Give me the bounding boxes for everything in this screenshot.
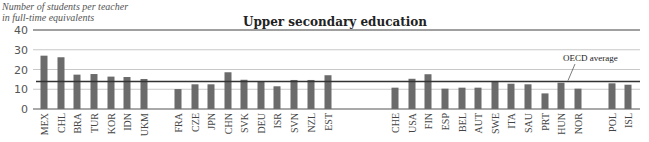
category-label: DEU: [256, 112, 267, 133]
oecd-average-annotation: OECD average: [563, 53, 618, 81]
category-label: ITA: [506, 112, 517, 129]
category-label: IDN: [122, 113, 133, 131]
annotation-leader-line: [568, 64, 575, 81]
bar-tur: [91, 74, 98, 109]
category-label: FRA: [173, 112, 184, 132]
y-tick-label: 0: [21, 103, 28, 116]
bar-bra: [74, 75, 81, 109]
category-label: USA: [407, 112, 418, 133]
bar-aut: [475, 88, 482, 109]
bar-mex: [41, 56, 48, 109]
bar-swe: [492, 81, 499, 109]
bar-nor: [575, 89, 582, 109]
bar-est: [325, 75, 332, 109]
category-label: UKM: [139, 113, 150, 136]
category-label: POL: [607, 113, 618, 132]
bar-usa: [409, 79, 416, 109]
category-label: CZE: [190, 113, 201, 132]
bar-pol: [609, 83, 616, 109]
bar-fra: [175, 89, 182, 109]
y-tick-label: 40: [14, 24, 28, 37]
category-label: KOR: [106, 113, 117, 134]
y-tick-label: 20: [14, 64, 28, 77]
category-label: TUR: [89, 113, 100, 133]
category-label: PRT: [540, 113, 551, 131]
y-tick-label: 30: [14, 44, 28, 57]
category-label: SWE: [490, 113, 501, 134]
oecd-average-label: OECD average: [563, 53, 618, 63]
bar-svn: [291, 80, 298, 109]
category-label: CHN: [223, 113, 234, 134]
category-label: MEX: [39, 112, 50, 135]
category-label: BEL: [457, 113, 468, 132]
category-label: JPN: [206, 113, 217, 130]
category-label: NOR: [573, 113, 584, 134]
bar-hun: [558, 83, 565, 109]
bars: [41, 56, 632, 109]
bar-nzl: [308, 80, 315, 109]
category-label: FIN: [423, 113, 434, 129]
bar-chart: 010203040 MEXCHLBRATURKORIDNUKMFRACZEJPN…: [0, 0, 649, 142]
bar-jpn: [208, 84, 215, 109]
bar-ukm: [141, 79, 148, 109]
bar-sau: [525, 84, 532, 109]
category-label: AUT: [473, 113, 484, 134]
category-label: BRA: [72, 112, 83, 133]
y-tick-label: 10: [14, 83, 28, 96]
bar-prt: [542, 93, 549, 109]
category-label: NZL: [306, 113, 317, 132]
bar-chl: [58, 57, 65, 109]
bar-fin: [425, 74, 432, 109]
category-label: CHE: [390, 113, 401, 133]
bar-svk: [241, 80, 248, 109]
category-label: EST: [323, 113, 334, 131]
bar-cze: [192, 84, 199, 109]
bar-che: [392, 88, 399, 109]
x-axis-category-labels: MEXCHLBRATURKORIDNUKMFRACZEJPNCHNSVKDEUI…: [39, 112, 634, 136]
bar-ita: [508, 84, 515, 109]
y-axis-ticks: 010203040: [14, 24, 28, 116]
category-label: ISR: [272, 113, 283, 129]
category-label: CHL: [56, 113, 67, 133]
category-label: ISL: [623, 113, 634, 128]
category-label: SVN: [289, 113, 300, 133]
bar-chn: [225, 72, 232, 109]
category-label: ESP: [440, 113, 451, 131]
category-label: HUN: [556, 113, 567, 135]
bar-isl: [625, 85, 632, 109]
bar-deu: [258, 81, 265, 109]
bar-bel: [459, 88, 466, 109]
category-label: SVK: [239, 112, 250, 133]
bar-esp: [442, 89, 449, 109]
category-label: SAU: [523, 112, 534, 133]
bar-isr: [274, 86, 281, 109]
